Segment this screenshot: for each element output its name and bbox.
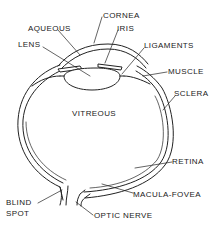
label-macula-fovea: MACULA-FOVEA bbox=[133, 190, 201, 199]
label-iris: IRIS bbox=[117, 24, 134, 33]
lens bbox=[32, 68, 150, 90]
optic-nerve bbox=[60, 186, 90, 206]
label-lens: LENS bbox=[18, 40, 41, 49]
label-cornea: CORNEA bbox=[103, 11, 140, 20]
label-vitreous: VITREOUS bbox=[72, 109, 116, 118]
label-optic-nerve: OPTIC NERVE bbox=[94, 211, 153, 220]
eye-diagram: CORNEA AQUEOUS IRIS LENS LIGAMENTS MUSCL… bbox=[0, 0, 217, 236]
label-ligaments: LIGAMENTS bbox=[144, 41, 194, 50]
label-blind-spot-line1: BLIND bbox=[6, 198, 32, 207]
label-muscle: MUSCLE bbox=[168, 67, 204, 76]
label-blind-spot-line2: SPOT bbox=[6, 209, 29, 218]
label-aqueous: AQUEOUS bbox=[28, 24, 71, 33]
label-sclera: SCLERA bbox=[174, 89, 209, 98]
label-retina: RETINA bbox=[172, 157, 204, 166]
